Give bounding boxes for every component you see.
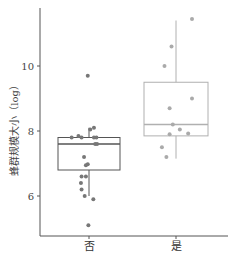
- data-point: [164, 155, 168, 159]
- y-tick-label: 10: [21, 61, 34, 72]
- y-axis-title: 蜂群规模大小（log）: [8, 80, 20, 176]
- iqr-box: [144, 82, 208, 136]
- data-point: [171, 123, 175, 127]
- data-point: [190, 97, 194, 101]
- data-point: [88, 127, 92, 131]
- data-point: [80, 188, 84, 192]
- data-point: [190, 17, 194, 21]
- data-point: [160, 145, 164, 149]
- data-point: [170, 45, 174, 49]
- data-point: [91, 197, 95, 201]
- y-axis: 6810: [21, 8, 40, 236]
- data-point: [168, 132, 172, 136]
- y-tick-label: 6: [28, 191, 34, 202]
- data-point: [83, 194, 87, 198]
- x-category-label: 是: [171, 240, 182, 253]
- data-point: [95, 142, 99, 146]
- data-point: [84, 175, 88, 179]
- x-category-label: 否: [84, 240, 95, 253]
- data-point: [168, 106, 172, 110]
- data-point: [92, 126, 96, 130]
- series-no: [58, 74, 120, 228]
- data-point: [79, 181, 83, 185]
- box-plot-chart: 6810 否是 蜂群规模大小（log）: [0, 0, 233, 260]
- data-point: [86, 162, 90, 166]
- data-point: [80, 136, 84, 140]
- data-point: [186, 132, 190, 136]
- data-point: [178, 127, 182, 131]
- plot-area: [58, 17, 208, 227]
- data-point: [86, 223, 90, 227]
- data-point: [94, 136, 98, 140]
- data-point: [162, 64, 166, 68]
- data-point: [86, 74, 90, 78]
- data-point: [82, 155, 86, 159]
- data-point: [80, 175, 84, 179]
- data-point: [70, 136, 74, 140]
- x-axis: 否是: [40, 236, 228, 253]
- y-tick-label: 8: [28, 126, 34, 137]
- series-yes: [144, 17, 208, 159]
